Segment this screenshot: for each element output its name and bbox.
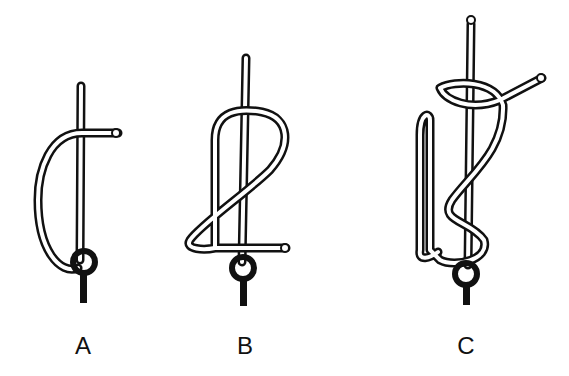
step-b-figure <box>189 58 289 306</box>
step-label-b: B <box>237 332 253 360</box>
knot-diagram: .rope-o{fill:none;stroke:#111;stroke-wid… <box>0 0 569 376</box>
stem <box>240 280 247 306</box>
step-a-figure <box>38 86 120 303</box>
stem <box>463 285 470 305</box>
step-label-a: A <box>75 332 91 360</box>
step-c-figure <box>420 16 545 305</box>
stem <box>80 274 87 303</box>
step-label-c: C <box>457 332 474 360</box>
